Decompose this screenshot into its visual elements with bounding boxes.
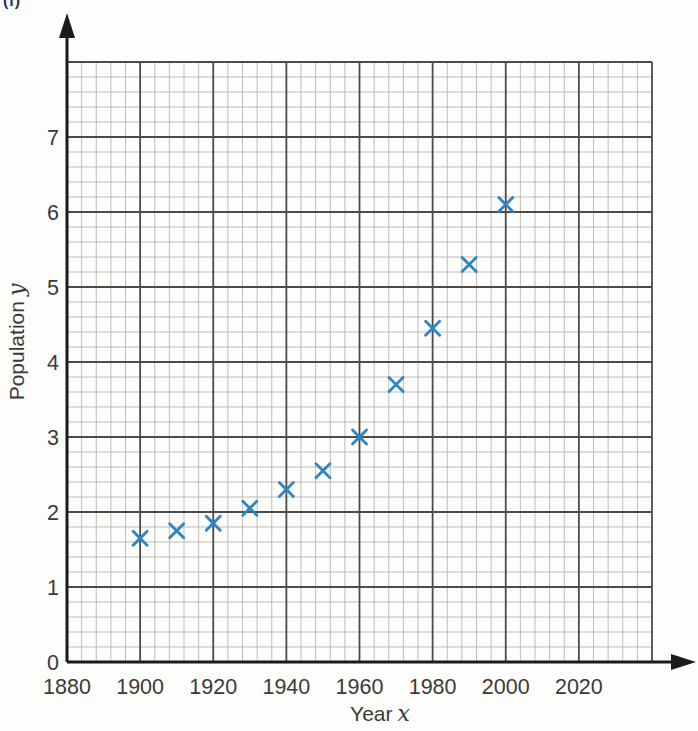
y-tick-label: 6	[47, 201, 59, 225]
x-tick-label: 1880	[43, 675, 91, 699]
x-axis-title-text: Year	[350, 702, 392, 725]
y-tick-label: 5	[47, 276, 59, 300]
y-tick-label: 3	[47, 426, 59, 450]
x-tick-label: 1900	[116, 675, 164, 699]
y-tick-label: 0	[47, 651, 59, 675]
x-axis-variable: x	[398, 701, 410, 726]
y-axis-title-text: Population	[5, 301, 28, 400]
x-tick-label: 1940	[262, 675, 310, 699]
x-tick-label: 1920	[189, 675, 237, 699]
scatter-chart: 1880190019201940196019802000202001234567	[0, 0, 698, 731]
x-tick-label: 1980	[409, 675, 457, 699]
y-tick-label: 4	[47, 351, 59, 375]
y-tick-label: 2	[47, 501, 59, 525]
x-tick-label: 1960	[336, 675, 384, 699]
data-points	[133, 198, 513, 546]
data-point-marker	[389, 378, 403, 392]
data-point-marker	[243, 501, 257, 515]
x-axis-title: Yearx	[300, 701, 460, 726]
data-point-marker	[316, 464, 330, 478]
y-axis-title: Populationy	[4, 262, 30, 422]
data-point-marker	[170, 524, 184, 538]
x-axis-arrow-icon	[671, 654, 696, 670]
data-point-marker	[462, 258, 476, 272]
x-tick-label: 2000	[482, 675, 530, 699]
worksheet-page: (i) 188019001920194019601980200020200123…	[0, 0, 698, 731]
y-axis-variable: y	[4, 284, 29, 296]
x-tick-label: 2020	[555, 675, 603, 699]
y-tick-label: 7	[47, 126, 59, 150]
y-tick-label: 1	[47, 576, 59, 600]
y-axis-arrow-icon	[59, 13, 75, 38]
